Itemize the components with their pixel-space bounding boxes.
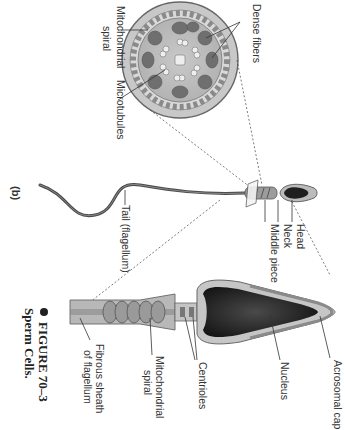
label-tail-flagellum: Tail (flagellum) <box>120 205 131 273</box>
label-middle-piece: Middle piece <box>269 224 280 283</box>
figure-caption-title: Sperm Cells. <box>22 308 36 379</box>
label-detail-mito-line2: spiral <box>142 370 153 395</box>
figure-caption-number: FIGURE 70–3 <box>36 308 50 402</box>
label-fibrous-sheath-line1: Fibrous sheath <box>94 344 105 413</box>
figure-page: Mitochondrial spiral Microtubules Dense … <box>0 0 345 430</box>
label-centrioles: Centrioles <box>197 362 208 409</box>
label-detail-mito-line1: Mitochondrial <box>154 356 165 418</box>
label-nucleus: Nucleus <box>279 362 290 400</box>
sperm-diagram <box>0 0 345 430</box>
cross-section <box>122 2 238 118</box>
bullet-icon <box>40 308 48 316</box>
label-mitochondrial-spiral-line1: Mitochondrial <box>115 6 126 68</box>
detailed-sperm-cell <box>70 280 335 344</box>
whole-sperm <box>40 180 317 216</box>
label-fibrous-sheath-line2: of flagellum <box>82 350 93 404</box>
label-mitochondrial-spiral-line2: spiral <box>101 26 112 51</box>
label-acrosomal-cap: Acrosomal cap <box>332 360 343 429</box>
label-head: Head <box>295 224 306 249</box>
label-microtubules: Microtubules <box>115 80 126 140</box>
label-dense-fibers: Dense fibers <box>251 4 262 63</box>
caption-number: FIGURE 70–3 <box>36 322 51 402</box>
label-neck: Neck <box>282 224 293 248</box>
panel-label: (b) <box>10 186 22 200</box>
